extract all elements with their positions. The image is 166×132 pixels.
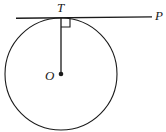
tangent-line (16, 17, 152, 18)
center-point-dot (59, 72, 64, 77)
label-center-O: O (45, 69, 54, 82)
geometry-figure: T P O (0, 0, 166, 132)
label-tangent-point-T: T (57, 1, 64, 14)
label-point-P: P (155, 9, 163, 22)
geometry-canvas (0, 0, 166, 132)
right-angle-marker-icon (61, 18, 70, 27)
